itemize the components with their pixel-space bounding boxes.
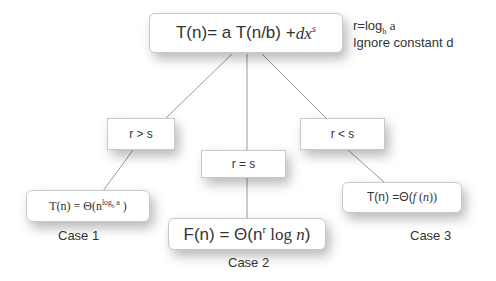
case1-sup: log (102, 198, 112, 207)
case3-prefix: T(n) =Θ( (367, 190, 413, 204)
condition-r-eq-s: r = s (201, 150, 286, 178)
case2-formula: F(n) = Θ(nr log n) (184, 223, 311, 245)
condition-label: r = s (232, 157, 256, 171)
root-prefix: T(n)= a T(n/b) + (176, 23, 296, 43)
result-case3: T(n) =Θ(f (n)) (342, 182, 462, 213)
case1-label: Case 1 (58, 228, 99, 243)
case1-prefix: T(n) = Θ(n (49, 199, 102, 213)
edge-gt-to-case1 (103, 150, 133, 191)
edge-lt-to-case3 (348, 150, 385, 183)
root-term-exp: s (312, 22, 316, 34)
note-r-prefix: r=log (353, 18, 382, 33)
note-ignore-constant: Ignore constant d (353, 35, 453, 50)
case1-suffix: ) (120, 199, 127, 213)
result-case1: T(n) = Θ(nlogb a ) (26, 190, 150, 222)
note-r-definition: r=logb a (353, 18, 396, 36)
condition-r-gt-s: r > s (107, 118, 175, 150)
case2-label: Case 2 (228, 255, 269, 270)
root-node: T(n)= a T(n/b) + dxs (149, 13, 343, 53)
condition-label: r > s (129, 127, 153, 141)
note-r-suffix: a (387, 18, 396, 33)
root-term: dxs (296, 22, 316, 44)
case3-open: ( (416, 190, 423, 204)
case3-formula: T(n) =Θ(f (n)) (367, 190, 437, 205)
root-term-var: dx (296, 24, 312, 43)
condition-label: r < s (331, 127, 355, 141)
result-case2: F(n) = Θ(nr log n) (168, 218, 326, 250)
edge-root-to-gt (166, 54, 232, 118)
case1-formula: T(n) = Θ(nlogb a ) (49, 198, 127, 214)
case2-prefix: F(n) = Θ(n (184, 225, 263, 244)
condition-r-lt-s: r < s (300, 118, 385, 150)
case3-label: Case 3 (410, 228, 451, 243)
case3-close: )) (429, 190, 437, 204)
edge-root-to-lt (262, 54, 326, 118)
case2-log: log (266, 225, 296, 244)
case2-var: n (296, 225, 305, 244)
case2-close: ) (305, 225, 311, 244)
